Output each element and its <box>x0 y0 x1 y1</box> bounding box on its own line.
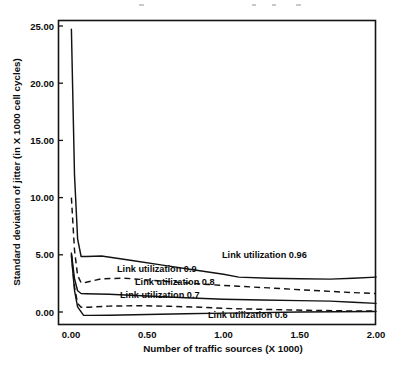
y-tick-label: 20.00 <box>30 78 54 89</box>
x-tick-label: 2.00 <box>367 329 386 340</box>
annotation-link-utilization-096: Link utilization 0.96 <box>222 250 307 260</box>
x-tick-label: 1.00 <box>214 329 233 340</box>
annotation-link-utilization-08: Link utilization 0.8 <box>135 277 215 287</box>
y-axis-title: Standard deviation of jitter (in X 1000 … <box>11 58 22 286</box>
y-tick-label: 0.00 <box>36 307 55 318</box>
x-tick-label: 0.50 <box>138 329 157 340</box>
annotation-link-utilization-09: Link utilization 0.9 <box>117 264 197 274</box>
y-tick-label: 25.00 <box>30 21 54 32</box>
x-tick-label: 1.50 <box>290 329 309 340</box>
annotation-link-utilization-07: Link utilization 0.7 <box>120 290 200 300</box>
annotation-link-utilization-06: Link utilization 0.6 <box>208 310 288 320</box>
x-axis-title: Number of traffic sources (X 1000) <box>143 343 303 354</box>
y-tick-label: 10.00 <box>30 192 54 203</box>
x-tick-label: 0.00 <box>62 329 81 340</box>
y-tick-label: 15.00 <box>30 135 54 146</box>
chart-svg: 25.00 20.00 15.00 10.00 5.00 0.00 0.00 0… <box>0 0 406 367</box>
y-tick-label: 5.00 <box>36 249 55 260</box>
jitter-line-chart-figure: 25.00 20.00 15.00 10.00 5.00 0.00 0.00 0… <box>0 0 406 367</box>
